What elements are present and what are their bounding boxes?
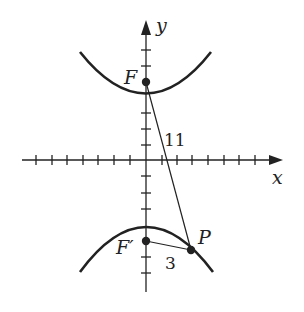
x-axis [22, 155, 272, 165]
focus-Fprime-label: F′ [115, 236, 134, 258]
length-FprimeP-label: 3 [165, 253, 176, 273]
focus-Fprime-point [142, 237, 150, 245]
y-axis-arrow-icon [141, 20, 151, 35]
y-axis [141, 30, 151, 292]
y-axis-label: y [155, 14, 167, 36]
focus-F-label: F [123, 66, 138, 88]
point-P-label: P [197, 226, 212, 248]
length-FP-label: 11 [164, 130, 186, 150]
point-P [187, 246, 195, 254]
x-axis-arrow-icon [269, 155, 283, 165]
hyperbola-diagram: y x F F′ P 11 3 [0, 0, 304, 312]
focus-F-point [142, 78, 150, 86]
x-axis-label: x [272, 166, 283, 188]
segment-F-P [146, 82, 191, 250]
